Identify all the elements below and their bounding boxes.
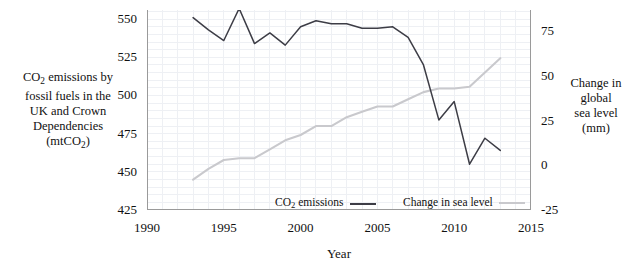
left-axis-title-line2: fossil fuels in the [25, 89, 111, 103]
tick-label-x-1990: 1990 [117, 220, 177, 236]
axis-ticks [147, 19, 531, 210]
left-axis-title-line3: UK and Crown [30, 104, 106, 118]
tick-label-left-550: 550 [103, 11, 137, 27]
tick-label-right-50: 50 [541, 68, 575, 84]
axis-lines [147, 10, 531, 210]
tick-label-left-475: 475 [103, 126, 137, 142]
right-axis-title-line4: (mm) [582, 121, 610, 135]
tick-label-x-2000: 2000 [271, 220, 331, 236]
tick-label-left-425: 425 [103, 202, 137, 218]
tick-label-right-0: 0 [541, 157, 575, 173]
tick-label-right-75: 75 [541, 23, 575, 39]
tick-label-x-2010: 2010 [424, 220, 484, 236]
legend-item-co2-emissions[interactable]: CO2 emissions [275, 196, 376, 210]
right-axis-title-line2: global [580, 91, 611, 105]
chart-legend: CO2 emissions Change in sea level [275, 196, 531, 212]
tick-label-x-2005: 2005 [347, 220, 407, 236]
tick-label-x-2015: 2015 [501, 220, 561, 236]
tick-label-left-525: 525 [103, 49, 137, 65]
x-axis-title: Year [147, 246, 531, 261]
legend-item-sea-level[interactable]: Change in sea level [403, 196, 525, 208]
plot-area [147, 10, 531, 210]
tick-label-right--25: -25 [541, 202, 575, 218]
tick-label-right-25: 25 [541, 113, 575, 129]
legend-swatch-co2-emissions [350, 203, 376, 205]
left-axis-title-line5: (mtCO2) [46, 134, 90, 148]
right-axis-title-line1: Change in [570, 76, 621, 90]
legend-label-sea-level: Change in sea level [403, 196, 493, 208]
legend-label-co2-emissions: CO2 emissions [275, 196, 344, 210]
left-axis-title-line1: CO2 emissions by [23, 70, 113, 84]
tick-label-left-450: 450 [103, 164, 137, 180]
legend-swatch-sea-level [499, 202, 525, 204]
chart-figure: CO2 emissions by fossil fuels in the UK … [0, 0, 638, 273]
tick-label-left-500: 500 [103, 87, 137, 103]
right-axis-title-line3: sea level [574, 106, 617, 120]
tick-label-x-1995: 1995 [194, 220, 254, 236]
left-axis-title-line4: Dependencies [33, 119, 103, 133]
grid-lines [147, 10, 531, 210]
plot-svg [147, 10, 531, 210]
